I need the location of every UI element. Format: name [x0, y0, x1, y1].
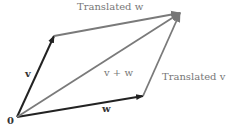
- parallelogram-diagram: 0 v w v + w Translated w Translated v: [0, 0, 234, 129]
- vector-w-arrow: [17, 96, 143, 117]
- translated-v-label: Translated v: [162, 71, 226, 82]
- translated-w-label: Translated w: [77, 1, 144, 12]
- origin-label: 0: [7, 115, 14, 126]
- sum-label: v + w: [103, 67, 133, 78]
- vector-v-label: v: [24, 68, 32, 79]
- vector-w-label: w: [101, 103, 111, 114]
